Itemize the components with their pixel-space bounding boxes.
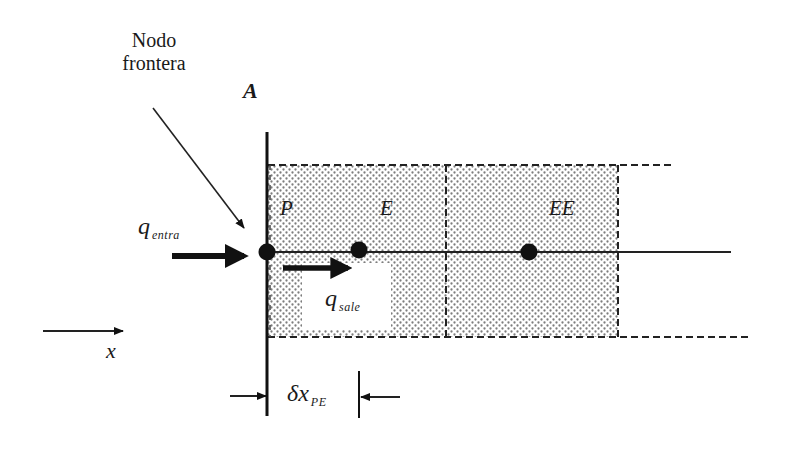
node-ee-dot	[521, 244, 538, 261]
flux-out-label: qsale	[325, 286, 360, 313]
node-ee-label: EE	[549, 198, 575, 219]
flux-out-subscript: sale	[339, 300, 360, 314]
boundary-node-label: Nodo frontera	[104, 30, 204, 73]
flux-in-symbol: q	[138, 213, 150, 239]
boundary-node-pointer-arrow	[153, 108, 244, 228]
boundary-node-label-line1: Nodo	[104, 30, 204, 50]
spacing-symbol: δx	[287, 380, 309, 406]
flux-out-symbol: q	[325, 285, 337, 311]
spacing-subscript: PE	[311, 395, 327, 409]
boundary-a-label: A	[243, 80, 258, 102]
node-e-dot	[351, 242, 368, 259]
diagram-canvas: Nodo frontera A P E EE qentra qsale x δx…	[0, 0, 786, 450]
spacing-label: δxPE	[287, 381, 326, 408]
x-axis-label: x	[106, 340, 116, 362]
node-p-label: P	[280, 198, 293, 219]
flux-in-subscript: entra	[152, 228, 180, 242]
node-p-dot	[259, 244, 276, 261]
node-e-label: E	[380, 198, 393, 219]
boundary-node-label-line2: frontera	[104, 53, 204, 73]
flux-in-label: qentra	[138, 214, 180, 241]
